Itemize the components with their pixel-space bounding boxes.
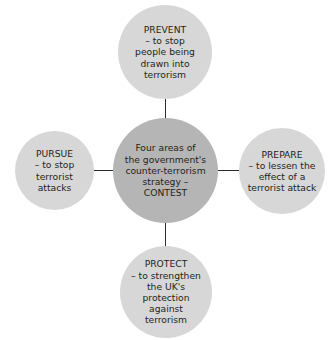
node-protect: PROTECT – to strengthen the UK's protect… [120,246,212,338]
connector-center-to-protect [165,221,166,248]
node-protect-label: PROTECT – to strengthen the UK's protect… [127,258,205,325]
node-pursue: PURSUE – to stop terrorist attacks [15,131,94,210]
node-prevent: PREVENT – to stop people being drawn int… [118,5,212,99]
node-center-label: Four areas of the government's counter-t… [121,142,210,198]
connector-center-to-prepare [216,170,241,171]
connector-center-to-pursue [92,170,115,171]
node-center-contest: Four areas of the government's counter-t… [113,118,218,223]
counter-terrorism-strategy-diagram: PREVENT – to stop people being drawn int… [0,0,331,340]
node-prevent-label: PREVENT – to stop people being drawn int… [131,24,199,80]
connector-center-to-prevent [165,97,166,120]
node-prepare-label: PREPARE – to lessen the effect of a terr… [244,149,321,194]
node-pursue-label: PURSUE – to stop terrorist attacks [31,148,79,193]
node-prepare: PREPARE – to lessen the effect of a terr… [239,128,325,214]
